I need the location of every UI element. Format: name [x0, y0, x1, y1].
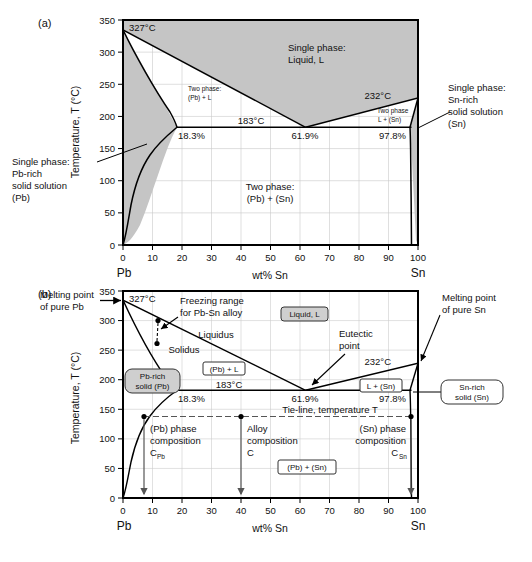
y-tick-b-5: 250 — [99, 345, 115, 356]
label-sn-rich-line3-a: solid solution — [448, 106, 503, 117]
x-tick-b-1: 10 — [147, 505, 158, 516]
region-box-pb-plus-sn-b: (Pb) + (Sn) — [278, 460, 336, 474]
label-pb-plus-l-box-b: (Pb) + L — [210, 365, 239, 374]
panel-label-a: (a) — [38, 17, 51, 29]
y-tick-b-3: 150 — [99, 404, 115, 415]
x-tick-b-6: 60 — [295, 505, 306, 516]
y-tick-b-4: 200 — [99, 374, 115, 385]
figure-a-svg: (a) — [0, 0, 532, 280]
label-pb-comp-line2-b: composition — [150, 435, 201, 446]
label-liquid-region-line1-a: Single phase: — [288, 42, 346, 53]
x-axis-left-end-label-b: Pb — [117, 519, 132, 533]
label-liquid-region-line2-a: Liquid, L — [288, 54, 324, 65]
x-axis-title-a: wt% Sn — [251, 269, 288, 280]
label-sn-comp-line2-b: composition — [355, 435, 406, 446]
label-melting-pb-line2-b: of pure Pb — [40, 301, 84, 312]
label-eutectic-temp-b: 183°C — [216, 379, 243, 390]
label-comp-beta-a: 97.8% — [379, 130, 406, 141]
label-comp-eutectic-a: 61.9% — [292, 130, 319, 141]
label-freezing-line2-b: for Pb-Sn alloy — [180, 307, 243, 318]
label-sn-rich-line2-a: Sn-rich — [448, 94, 478, 105]
y-tick-a-6: 300 — [99, 47, 115, 58]
x-tick-b-8: 80 — [354, 505, 365, 516]
label-tie-line-b: Tie-line, temperature T — [282, 404, 378, 415]
label-pb-melting-temp-a: 327°C — [129, 22, 156, 33]
label-sn-rich-line1-a: Single phase: — [448, 82, 506, 93]
label-eutectic-temp-a: 183°C — [238, 115, 265, 126]
label-pb-rich-line2-a: Pb-rich — [12, 168, 42, 179]
figure-b-svg: (b) — [0, 280, 532, 562]
label-l-plus-sn-box-b: L + (Sn) — [367, 382, 396, 391]
label-sn-rich-box-line1-b: Sn-rich — [459, 383, 484, 392]
y-tick-b-2: 100 — [99, 433, 115, 444]
x-axis-title-b: wt% Sn — [251, 522, 288, 534]
label-pb-rich-box-line2-b: solid (Pb) — [136, 382, 170, 391]
label-melting-sn-line2-b: of pure Sn — [442, 304, 486, 315]
x-tick-b-2: 20 — [177, 505, 188, 516]
label-melting-sn-line1-b: Melting point — [442, 292, 496, 303]
freezing-range-lower-dot-b — [154, 341, 159, 346]
label-sn-melting-temp-b: 232°C — [364, 356, 391, 367]
label-sn-melting-temp-a: 232°C — [364, 90, 391, 101]
y-tick-a-3: 150 — [99, 143, 115, 154]
label-two-phase-lsn-line1-a: Two phase — [377, 107, 409, 115]
label-sn-rich-box-line2-b: solid (Sn) — [455, 393, 489, 402]
y-tick-a-7: 350 — [99, 15, 115, 26]
x-tick-a-4: 40 — [236, 252, 247, 263]
label-comp-alpha-a: 18.3% — [178, 130, 205, 141]
label-two-phase-pbl-line2-a: (Pb) + L — [188, 94, 212, 102]
y-axis-title-a: Temperature, T (°C) — [69, 86, 81, 179]
x-tick-a-0: 0 — [120, 252, 125, 263]
label-comp-alpha-b: 18.3% — [178, 393, 205, 404]
y-tick-b-0: 0 — [110, 493, 115, 504]
x-tick-a-2: 20 — [177, 252, 188, 263]
label-melting-pb-line1-b: Melting point — [40, 289, 94, 300]
x-tick-a-6: 60 — [295, 252, 306, 263]
label-two-phase-solid-line2-a: (Pb) + (Sn) — [247, 193, 294, 204]
x-tick-a-1: 10 — [147, 252, 158, 263]
label-two-phase-lsn-line2-a: L + (Sn) — [378, 116, 401, 124]
tie-line-point-c-b — [238, 414, 243, 419]
label-solidus-b: Solidus — [168, 344, 199, 355]
region-box-pb-rich-b: Pb-rich solid (Pb) — [125, 369, 180, 393]
x-tick-a-9: 90 — [383, 252, 394, 263]
freezing-range-upper-dot-b — [155, 318, 160, 323]
label-eutectic-line1-b: Eutectic — [339, 328, 373, 339]
label-sn-rich-line4-a: (Sn) — [448, 118, 466, 129]
label-alloy-comp-line2-b: composition — [247, 435, 298, 446]
x-tick-a-7: 70 — [324, 252, 335, 263]
label-pb-comp-line3-b: C — [150, 447, 157, 458]
label-comp-eutectic-b: 61.9% — [292, 393, 319, 404]
label-two-phase-pbl-line1-a: Two phase: — [188, 85, 221, 93]
y-tick-labels-a: 0 50 100 150 200 250 300 350 — [99, 15, 115, 251]
x-tick-b-3: 30 — [206, 505, 217, 516]
y-tick-b-6: 300 — [99, 315, 115, 326]
phase-diagram-panel-a: (a) — [0, 0, 532, 280]
x-tick-a-8: 80 — [354, 252, 365, 263]
label-pb-rich-box-line1-b: Pb-rich — [140, 372, 165, 381]
callout-arrow-melting-sn-b — [421, 315, 440, 361]
label-freezing-line1-b: Freezing range — [180, 295, 244, 306]
x-tick-b-10: 100 — [410, 505, 426, 516]
y-tick-a-1: 50 — [104, 207, 115, 218]
x-tick-b-5: 50 — [265, 505, 276, 516]
x-tick-b-4: 40 — [236, 505, 247, 516]
x-axis-right-end-label-b: Sn — [411, 519, 426, 533]
x-tick-labels-b: 0 10 20 30 40 50 60 70 80 90 100 — [120, 505, 426, 516]
x-tick-a-10: 100 — [410, 252, 426, 263]
region-box-pb-plus-l-b: (Pb) + L — [203, 362, 245, 375]
y-tick-labels-b: 0 50 100 150 200 250 300 350 — [99, 286, 115, 504]
x-axis-right-end-label-a: Sn — [411, 266, 426, 280]
label-liquid-box-b: Liquid, L — [289, 310, 320, 319]
label-sn-comp-line1-b: (Sn) phase — [360, 423, 406, 434]
label-pb-comp-line1-b: (Pb) phase — [150, 423, 196, 434]
x-tick-a-5: 50 — [265, 252, 276, 263]
label-alloy-comp-line3-b: C — [247, 447, 254, 458]
callout-line-sn-rich-a — [418, 112, 450, 128]
label-alloy-comp-line1-b: Alloy — [247, 423, 268, 434]
region-box-liquid-b: Liquid, L — [281, 307, 328, 321]
y-axis-title-b: Temperature, T (°C) — [69, 352, 81, 445]
y-tick-b-1: 50 — [104, 463, 115, 474]
region-box-l-plus-sn-b: L + (Sn) — [360, 379, 402, 392]
label-eutectic-line2-b: point — [339, 340, 360, 351]
